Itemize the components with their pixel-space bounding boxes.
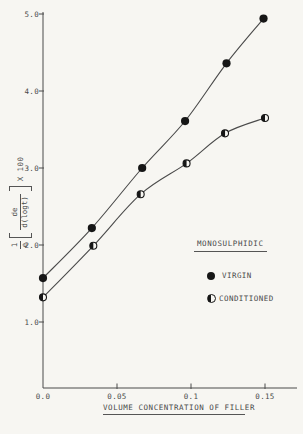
legend-title: MONOSULPHIDIC xyxy=(194,239,267,252)
x-tick-label: 0.0 xyxy=(36,392,50,401)
chart-canvas xyxy=(0,0,303,434)
figure: 1 e de d(logt) X 100 VOLUME CONCENTRATIO… xyxy=(0,0,303,434)
legend: MONOSULPHIDIC VIRGIN CONDITIONED xyxy=(186,231,274,303)
close-bracket-icon xyxy=(9,186,32,191)
legend-label-virgin: VIRGIN xyxy=(222,271,252,280)
x-tick-label: 0.15 xyxy=(255,392,274,401)
data-point-virgin xyxy=(259,15,267,23)
y-tick-label: 5.0 xyxy=(25,10,39,19)
y-tick-label: 3.0 xyxy=(25,164,39,173)
data-point-virgin xyxy=(181,117,189,125)
open-bracket-icon xyxy=(9,233,32,238)
axis-lines xyxy=(43,12,297,388)
legend-entry-conditioned: CONDITIONED xyxy=(207,294,274,303)
x-tick-label: 0.05 xyxy=(107,392,126,401)
fraction-numerator: de xyxy=(11,206,20,219)
data-point-virgin xyxy=(88,224,96,232)
y-tick-label: 4.0 xyxy=(25,87,39,96)
virgin-marker-icon xyxy=(207,272,215,280)
x-axis-label: VOLUME CONCENTRATION OF FILLER xyxy=(103,403,245,415)
legend-label-conditioned: CONDITIONED xyxy=(219,294,274,303)
fraction-numerator: 1 xyxy=(11,241,20,250)
y-tick-label: 1.0 xyxy=(25,318,39,327)
fraction-denominator: d(logt) xyxy=(20,194,30,230)
derivative-fraction: de d(logt) xyxy=(11,194,29,230)
conditioned-marker-icon xyxy=(207,294,216,303)
y-tick-label: 2.0 xyxy=(25,241,39,250)
data-point-virgin xyxy=(39,274,47,282)
times-100-label: X 100 xyxy=(16,157,25,182)
data-point-virgin xyxy=(222,59,230,67)
x-tick-label: 0.1 xyxy=(184,392,198,401)
legend-entry-virgin: VIRGIN xyxy=(207,271,274,280)
data-point-virgin xyxy=(138,164,146,172)
